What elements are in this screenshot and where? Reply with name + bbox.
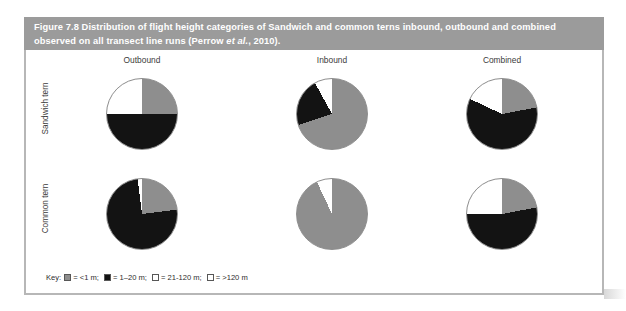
pie-sandwich-tern-outbound <box>106 78 178 150</box>
column-header-inbound: Inbound <box>272 55 392 65</box>
pie-common-tern-outbound <box>106 178 178 250</box>
pie-sandwich-tern-combined <box>466 78 538 150</box>
caption-prefix: Figure 7.8 Distribution of flight height… <box>34 22 556 46</box>
column-header-outbound: Outbound <box>82 55 202 65</box>
legend-item-1-20m: = 1–20 m; <box>104 273 147 282</box>
pie-sandwich-tern-inbound <box>296 78 368 150</box>
figure-container: Figure 7.8 Distribution of flight height… <box>24 17 604 295</box>
caption-suffix: , 2010). <box>248 36 280 46</box>
legend-label-below-1m: = <1 m; <box>73 273 99 282</box>
legend-item-below-1m: = <1 m; <box>64 273 99 282</box>
legend-swatch-white-2-icon <box>207 274 214 281</box>
legend-label-1-20m: = 1–20 m; <box>113 273 147 282</box>
legend-item-above-120m: = >120 m <box>207 273 248 282</box>
legend-item-21-120m: = 21-120 m; <box>152 273 202 282</box>
legend-swatch-white-icon <box>152 274 159 281</box>
legend-title: Key: <box>46 273 61 282</box>
caption-italic: et al. <box>226 36 248 46</box>
figure-caption: Figure 7.8 Distribution of flight height… <box>34 21 594 48</box>
legend-swatch-gray-icon <box>64 274 71 281</box>
row-label-common-tern: Common tern <box>41 161 50 257</box>
legend-label-above-120m: = >120 m <box>216 273 248 282</box>
page-edge-shadow <box>604 289 626 299</box>
pie-common-tern-combined <box>466 178 538 250</box>
chart-panel: Outbound Inbound Combined Sandwich tern … <box>24 50 604 295</box>
figure-caption-band: Figure 7.8 Distribution of flight height… <box>24 17 604 50</box>
column-header-combined: Combined <box>442 55 562 65</box>
legend-swatch-black-icon <box>104 274 111 281</box>
pie-common-tern-inbound <box>296 178 368 250</box>
chart-legend: Key: = <1 m; = 1–20 m; = 21-120 m; = >12… <box>46 273 253 282</box>
legend-label-21-120m: = 21-120 m; <box>161 273 202 282</box>
row-label-sandwich-tern: Sandwich tern <box>41 61 50 157</box>
